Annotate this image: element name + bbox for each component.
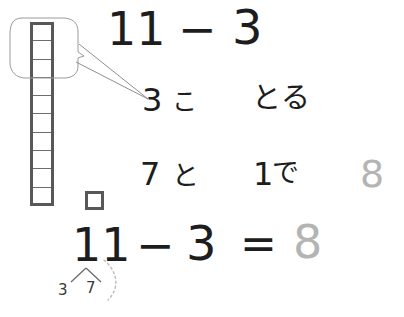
- combine-result-faded: 8: [360, 155, 384, 193]
- combine-conjunction-kana: と: [172, 162, 199, 189]
- equation-top-minuend: 11: [107, 6, 166, 52]
- worksheet-canvas: 11 − 3 3 こ とる 7 と 1 で 8 11 − 3 = 8 3 7: [0, 0, 404, 317]
- equation-bottom-result-faded: 8: [293, 219, 322, 265]
- callout-balloon: [10, 18, 84, 78]
- combine-particle-kana: で: [272, 159, 299, 186]
- decomposition-left-number: 3: [58, 283, 68, 298]
- equation-bottom-minuend: 11: [72, 222, 131, 268]
- take-verb-kana: とる: [252, 84, 310, 113]
- combine-left-number: 7: [140, 158, 160, 190]
- equation-top-subtrahend: 3: [232, 3, 263, 51]
- equation-top-operator: −: [178, 6, 217, 52]
- equation-bottom-operator: −: [136, 222, 175, 268]
- equation-bottom-equals: =: [240, 222, 277, 266]
- decomposition-right-number: 7: [86, 281, 96, 296]
- equation-bottom-subtrahend: 3: [186, 219, 217, 267]
- callout-leader-line-lower: [76, 62, 148, 99]
- take-counter-kana: こ: [172, 89, 197, 114]
- combine-right-number: 1: [253, 158, 273, 190]
- take-count: 3: [142, 84, 162, 116]
